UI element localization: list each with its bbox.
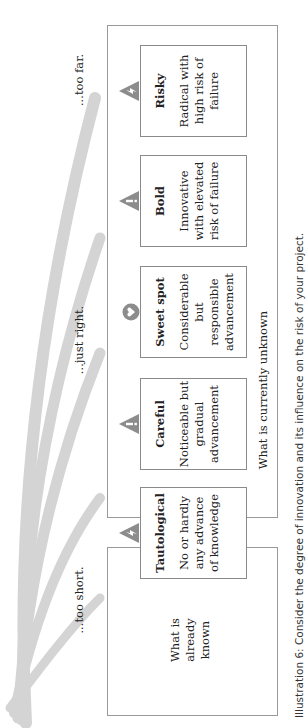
card-careful: Careful Noticeable but gradual advanceme… xyxy=(140,378,247,470)
exclamation-warning-icon xyxy=(118,190,140,212)
card-sweet-spot: Sweet spot Considerable but responsible … xyxy=(140,266,247,358)
card-risky: Risky Radical with high risk of failure xyxy=(140,45,247,137)
unknown-label: What is currently unknown xyxy=(256,311,270,469)
label-too-far: ...too far. xyxy=(72,54,86,106)
exclamation-warning-icon xyxy=(118,413,140,435)
label-too-short: ...too short. xyxy=(72,566,86,633)
known-label: What is already known xyxy=(168,600,213,680)
label-just-right: ...just right. xyxy=(72,306,86,374)
innovation-risk-diagram: ...too short. ...just right. ...too far.… xyxy=(0,0,308,728)
card-tautological: Tautological No or hardly any advance of… xyxy=(140,487,247,579)
card-bold: Bold Innovative with elevated risk of fa… xyxy=(140,155,247,247)
lightning-warning-icon xyxy=(118,522,140,544)
figure-caption: Illustration 6: Consider the degree of i… xyxy=(293,233,305,718)
lightning-warning-icon xyxy=(118,80,140,102)
heart-circle-icon xyxy=(118,301,140,323)
